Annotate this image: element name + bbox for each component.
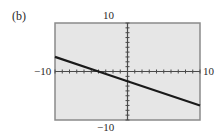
graph-plot [0, 0, 222, 132]
